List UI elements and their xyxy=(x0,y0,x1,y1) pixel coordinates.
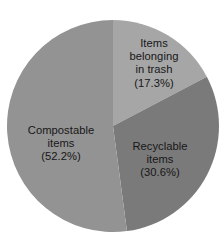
pie-slices xyxy=(7,20,219,232)
pie-chart-svg xyxy=(0,0,224,242)
pie-chart-figure: Items belonging in trash (17.3%) Recycla… xyxy=(0,0,224,242)
pie-slice-compostable-items[interactable] xyxy=(7,20,127,232)
